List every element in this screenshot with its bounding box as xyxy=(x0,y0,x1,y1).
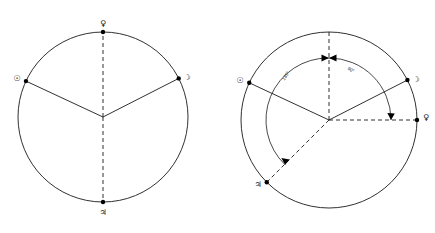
left-marker-moon xyxy=(177,76,181,80)
venus-icon: ♀ xyxy=(423,113,429,122)
angle-label-90: 90° xyxy=(347,66,356,74)
left-marker-jupiter xyxy=(101,200,105,204)
aspect-diagram-canvas: ♀ ☉ ☽ ♃ xyxy=(0,0,435,233)
right-panel: ☉ ☽ ♀ ♃ 135° 90° xyxy=(236,32,429,208)
sun-icon: ☉ xyxy=(236,76,243,85)
sun-icon: ☉ xyxy=(13,74,20,83)
angle-arc-90-arrowhead xyxy=(387,113,395,120)
right-dashed-ray-jupiter xyxy=(267,120,329,182)
angle-arc-90 xyxy=(329,58,391,120)
angle-arc-135-arrowhead xyxy=(281,158,289,165)
angle-arc-135 xyxy=(266,58,329,165)
left-marker-sun xyxy=(24,79,28,83)
right-solid-ray-moon xyxy=(329,80,407,120)
left-solid-ray-moon xyxy=(103,78,179,117)
left-solid-ray-sun xyxy=(26,81,103,117)
angle-arc-origin-marker-right xyxy=(329,55,337,62)
right-marker-venus xyxy=(415,118,419,122)
venus-icon: ♀ xyxy=(100,19,106,28)
right-marker-sun xyxy=(247,81,251,85)
moon-icon: ☽ xyxy=(183,73,190,82)
jupiter-icon: ♃ xyxy=(254,180,261,189)
figure-root: ♀ ☉ ☽ ♃ xyxy=(0,0,435,233)
left-marker-venus xyxy=(101,30,105,34)
right-marker-moon xyxy=(405,78,409,82)
jupiter-icon: ♃ xyxy=(99,208,106,217)
left-panel: ♀ ☉ ☽ ♃ xyxy=(13,19,190,217)
angle-arc-origin-marker-left xyxy=(322,55,330,62)
moon-icon: ☽ xyxy=(412,75,419,84)
right-marker-jupiter xyxy=(265,180,269,184)
right-solid-ray-sun xyxy=(249,83,329,120)
